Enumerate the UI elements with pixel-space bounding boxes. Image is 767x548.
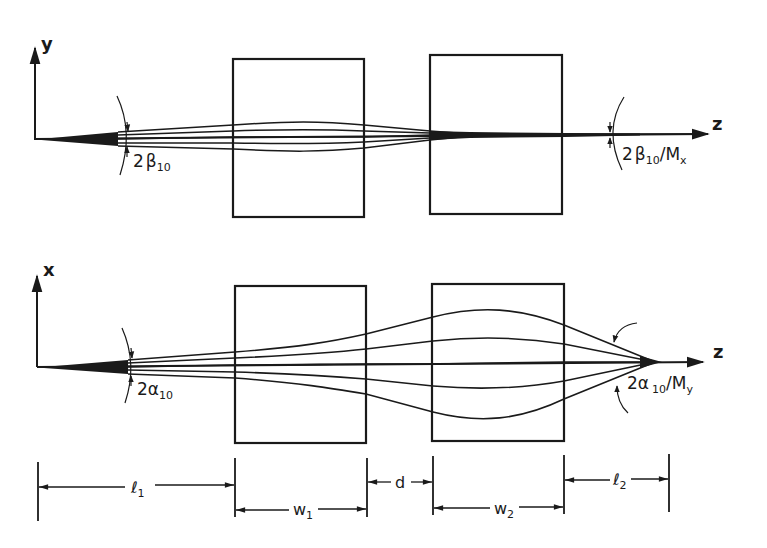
dim-label-l2: ℓ2 [612, 470, 627, 492]
dim-label-l1: ℓ1 [130, 478, 145, 500]
output-angle-arc-bottom [614, 323, 637, 342]
output-angle-label-top: 2β10/Mx [622, 144, 687, 167]
top-panel [35, 48, 708, 217]
x-axis-label: x [43, 259, 55, 280]
output-angle-label-bottom: 2α10/My [627, 373, 693, 396]
input-cone-bottom [37, 360, 128, 374]
bottom-panel [37, 276, 703, 443]
z-axis-label-top: z [712, 113, 722, 134]
beam-diagram: y z 2β10 2β10/Mx [0, 0, 767, 548]
dim-label-d: d [395, 473, 405, 492]
y-axis-label: y [41, 33, 53, 54]
z-axis-label-bottom: z [713, 341, 723, 362]
input-angle-label-top: 2β10 [133, 151, 171, 174]
output-beam-top [430, 131, 640, 140]
dim-label-w1: w1 [293, 500, 313, 522]
dim-label-w2: w2 [494, 499, 514, 521]
focal-point [640, 356, 662, 368]
input-cone-top [35, 132, 118, 146]
input-angle-label-bottom: 2α10 [137, 379, 173, 402]
rays-bottom [128, 310, 655, 419]
